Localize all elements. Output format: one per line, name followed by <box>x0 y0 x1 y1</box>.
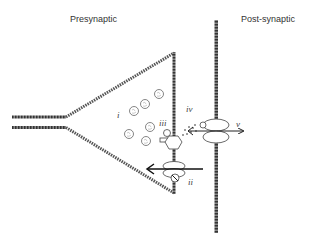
marker-ii: ii <box>188 177 193 187</box>
synapse-diagram <box>0 0 309 245</box>
reuptake-transporter <box>147 162 203 183</box>
vesicles <box>125 90 164 146</box>
marker-i: i <box>117 110 120 120</box>
marker-iii: iii <box>159 118 167 128</box>
autoreceptor <box>160 130 182 150</box>
marker-v: v <box>236 119 240 129</box>
axon <box>12 116 66 130</box>
postsynaptic-receptor <box>188 119 243 143</box>
marker-iv: iv <box>186 104 193 114</box>
